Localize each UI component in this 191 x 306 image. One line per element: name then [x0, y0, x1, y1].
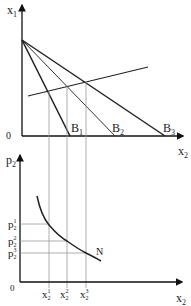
lower-graph: p2 x2 0 N p12 p22 p32 x12 x22 x32: [6, 153, 186, 306]
demand-curve-n: [37, 196, 101, 261]
label-x2-1: x12: [42, 288, 51, 301]
upper-y-axis-label: x1: [7, 3, 17, 19]
upper-origin-label: 0: [6, 130, 11, 141]
upper-x-axis-label: x2: [178, 144, 188, 160]
budget-line-b2: [22, 40, 115, 136]
demand-derivation-diagram: x1 x2 0 B1 B2 B3 p2 x2 0 N p12 p22 p32 x…: [0, 0, 191, 306]
label-b2: B2: [112, 121, 124, 137]
label-p2-1: p12: [8, 218, 17, 231]
lower-y-axis-label: p2: [6, 153, 16, 169]
price-consumption-line: [28, 67, 148, 96]
lower-origin-label: 0: [10, 283, 15, 293]
lower-x-axis-label: x2: [176, 291, 186, 306]
label-x2-3: x32: [80, 288, 89, 301]
label-p2-3: p32: [8, 247, 17, 260]
label-b3: B3: [163, 121, 175, 137]
label-n: N: [96, 246, 103, 257]
label-b1: B1: [71, 121, 83, 137]
label-x2-2: x22: [60, 288, 69, 301]
budget-line-b3: [22, 40, 165, 136]
